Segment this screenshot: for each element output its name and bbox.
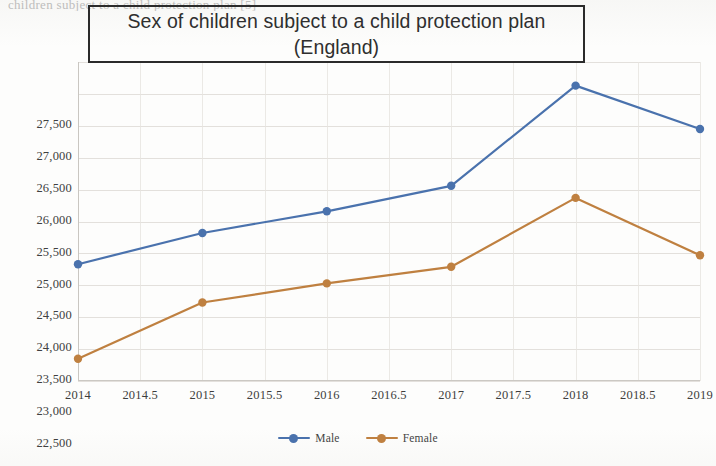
gridline-horizontal	[78, 381, 700, 382]
legend-item-male[interactable]: Male	[278, 432, 339, 444]
y-axis-tick-label: 23,500	[0, 372, 72, 387]
chart-title-line1: Sex of children subject to a child prote…	[128, 10, 546, 32]
data-point-female	[198, 298, 206, 306]
x-axis-tick-label: 2018.5	[620, 388, 656, 403]
chart-figure: children subject to a child protection p…	[0, 0, 716, 466]
data-point-female	[74, 355, 82, 363]
x-axis-tick-label: 2019	[687, 388, 713, 403]
y-axis-tick-label: 26,000	[0, 212, 72, 227]
y-axis-tick-label: 23,000	[0, 404, 72, 419]
data-point-female	[323, 279, 331, 287]
y-axis-tick-label: 24,000	[0, 340, 72, 355]
data-point-male	[198, 229, 206, 237]
x-axis-tick-label: 2017.5	[496, 388, 532, 403]
y-axis-tick-label: 27,500	[0, 117, 72, 132]
x-axis-tick-label: 2018	[563, 388, 589, 403]
gridline-vertical	[700, 62, 701, 381]
x-axis-tick-label: 2015.5	[247, 388, 283, 403]
data-point-female	[571, 194, 579, 202]
legend-label: Female	[403, 432, 438, 444]
y-axis-tick-label: 25,500	[0, 244, 72, 259]
legend-label: Male	[315, 432, 339, 444]
chart-title: Sex of children subject to a child prote…	[120, 8, 554, 60]
x-axis-tick-label: 2014	[65, 388, 91, 403]
legend-marker-icon	[366, 433, 398, 443]
data-point-male	[696, 125, 704, 133]
series-line-male	[78, 86, 700, 265]
legend-marker-icon	[278, 433, 310, 443]
x-axis-tick-label: 2015	[189, 388, 215, 403]
x-axis-tick-label: 2017	[438, 388, 464, 403]
data-point-male	[323, 207, 331, 215]
chart-title-line2: (England)	[294, 36, 379, 58]
data-point-female	[447, 263, 455, 271]
legend-dot-icon	[289, 434, 298, 443]
x-axis-tick-label: 2016	[314, 388, 340, 403]
chart-legend: MaleFemale	[0, 432, 716, 444]
x-axis-tick-label: 2016.5	[371, 388, 407, 403]
series-line-female	[78, 198, 700, 359]
data-point-male	[74, 260, 82, 268]
data-point-male	[447, 182, 455, 190]
legend-dot-icon	[377, 434, 386, 443]
data-point-male	[571, 81, 579, 89]
y-axis-tick-label: 25,000	[0, 276, 72, 291]
chart-title-box: Sex of children subject to a child prote…	[88, 5, 585, 63]
legend-item-female[interactable]: Female	[366, 432, 438, 444]
y-axis-tick-label: 26,500	[0, 180, 72, 195]
data-point-female	[696, 251, 704, 259]
x-axis-tick-label: 2014.5	[122, 388, 158, 403]
y-axis-tick-label: 24,500	[0, 308, 72, 323]
plot-area	[78, 62, 700, 381]
x-axis-tick-labels: 20142014.520152015.520162016.520172017.5…	[78, 388, 700, 408]
y-axis-tick-label: 27,000	[0, 148, 72, 163]
series-lines	[78, 62, 700, 381]
